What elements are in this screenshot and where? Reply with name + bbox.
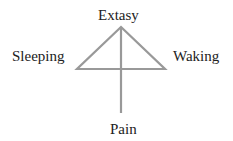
label-pain: Pain — [110, 122, 137, 137]
label-waking: Waking — [173, 49, 219, 64]
extasy-pain-diagram: Extasy Sleeping Waking Pain — [0, 0, 233, 141]
label-sleeping: Sleeping — [12, 49, 65, 64]
label-extasy: Extasy — [98, 8, 139, 23]
